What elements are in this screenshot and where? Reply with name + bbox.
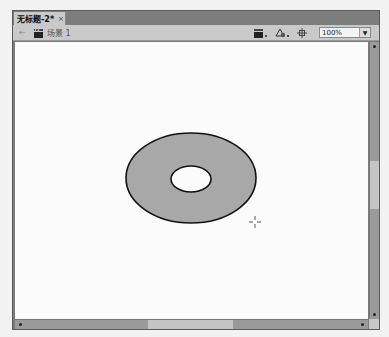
back-arrow-icon[interactable]: ←	[19, 27, 26, 38]
document-tab-bar: 无标题-2* ×	[13, 11, 379, 25]
edit-symbols-icon[interactable]	[275, 27, 291, 38]
center-stage-icon[interactable]	[297, 27, 307, 38]
zoom-combo-box[interactable]: 100% ▼	[319, 27, 371, 38]
scene-clapperboard-icon	[33, 27, 44, 38]
scene-label[interactable]: 场景 1	[47, 27, 71, 38]
stage-canvas[interactable]	[15, 42, 368, 319]
ring-shape[interactable]	[126, 133, 256, 223]
zoom-value: 100%	[322, 29, 342, 37]
crosshair-cursor-icon	[249, 216, 261, 228]
stage-drawing	[15, 42, 368, 319]
scroll-down-icon[interactable]	[373, 313, 376, 316]
document-tab[interactable]: 无标题-2* ×	[14, 12, 66, 25]
vertical-scrollbar[interactable]	[369, 42, 379, 319]
edit-bar: ← 场景 1	[13, 25, 379, 41]
vertical-scroll-thumb[interactable]	[370, 161, 379, 209]
close-tab-icon[interactable]: ×	[58, 15, 64, 23]
scrollbar-corner	[369, 319, 379, 329]
scroll-up-icon[interactable]	[373, 45, 376, 48]
chevron-down-icon[interactable]: ▼	[359, 28, 370, 37]
edit-scene-icon[interactable]	[253, 27, 269, 38]
scroll-right-icon[interactable]	[361, 323, 364, 326]
document-window: 无标题-2* × ← 场景 1	[12, 10, 380, 330]
scroll-left-icon[interactable]	[19, 323, 22, 326]
horizontal-scroll-thumb[interactable]	[148, 320, 233, 329]
document-tab-title: 无标题-2*	[17, 13, 54, 24]
horizontal-scrollbar[interactable]	[15, 319, 368, 329]
